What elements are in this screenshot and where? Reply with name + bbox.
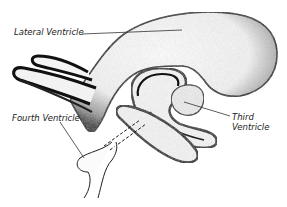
- label-third-line2: Ventricle: [232, 122, 269, 132]
- label-third-line1: Third: [232, 112, 269, 122]
- label-third-ventricle: Third Ventricle: [232, 112, 269, 132]
- fourth-leader-line: [60, 122, 84, 158]
- label-fourth-ventricle: Fourth Ventricle: [12, 113, 80, 123]
- label-lateral-ventricle: Lateral Ventricle: [14, 27, 84, 37]
